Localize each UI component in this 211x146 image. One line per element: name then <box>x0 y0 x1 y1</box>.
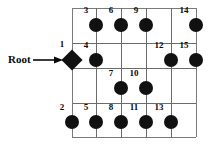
graph-node-14[interactable] <box>189 18 203 32</box>
graph-node-label-11: 11 <box>130 103 139 112</box>
root-label: Root <box>8 54 31 65</box>
graph-node-label-1: 1 <box>60 40 65 49</box>
graph-node-10[interactable] <box>139 81 153 95</box>
diagram-canvas: 123456789101112131415 Root <box>0 0 211 146</box>
graph-node-5[interactable] <box>89 115 103 129</box>
graph-node-6[interactable] <box>114 18 128 32</box>
graph-node-3[interactable] <box>89 18 103 32</box>
graph-node-4[interactable] <box>89 53 103 67</box>
grid-line-horizontal <box>72 43 196 44</box>
graph-node-9[interactable] <box>139 18 153 32</box>
graph-node-label-14: 14 <box>180 6 189 15</box>
graph-node-label-10: 10 <box>130 69 139 78</box>
graph-node-label-2: 2 <box>60 103 65 112</box>
graph-node-label-12: 12 <box>155 41 164 50</box>
graph-node-8[interactable] <box>114 115 128 129</box>
graph-node-7[interactable] <box>114 81 128 95</box>
grid-line-horizontal <box>72 137 196 138</box>
graph-node-2[interactable] <box>65 115 79 129</box>
graph-node-11[interactable] <box>139 115 153 129</box>
graph-node-label-8: 8 <box>109 103 114 112</box>
graph-node-label-6: 6 <box>109 6 114 15</box>
graph-node-label-13: 13 <box>155 103 164 112</box>
graph-node-label-9: 9 <box>134 6 139 15</box>
graph-node-label-4: 4 <box>84 41 89 50</box>
graph-node-15[interactable] <box>189 53 203 67</box>
root-arrow-icon <box>33 54 63 66</box>
graph-node-13[interactable] <box>164 115 178 129</box>
graph-node-label-3: 3 <box>84 6 89 15</box>
graph-node-label-5: 5 <box>84 103 89 112</box>
graph-node-label-15: 15 <box>180 41 189 50</box>
graph-node-12[interactable] <box>164 53 178 67</box>
graph-node-label-7: 7 <box>109 69 114 78</box>
